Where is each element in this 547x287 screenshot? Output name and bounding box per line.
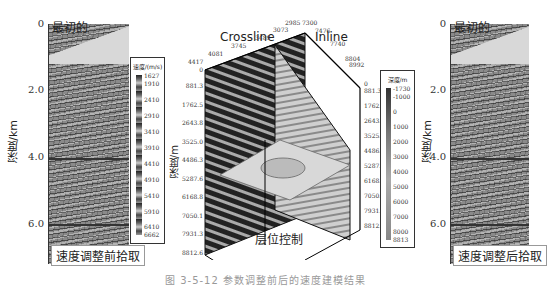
- left-bottom-label: 速度调整前拾取: [51, 245, 145, 266]
- left-y-tick: 6.0: [20, 218, 44, 229]
- horizon-line: [451, 224, 529, 226]
- depth-tick: 2643.8: [182, 119, 203, 126]
- depth-legend-title: 深度/m: [381, 75, 414, 84]
- crossline-tick: 3073: [273, 26, 288, 33]
- horizon-line: [49, 224, 129, 226]
- left-y-tick: 0: [20, 18, 44, 29]
- velocity-tick: 6410: [144, 223, 159, 230]
- velocity-tick: 1910: [144, 80, 159, 87]
- depth-legend-tick: 1000: [393, 123, 408, 130]
- left-seismic-image: [49, 24, 129, 264]
- right-seismic-panel: 深度/km 0 2.0 4.0 6.0 最初的 速度调整后拾取: [420, 0, 542, 270]
- crossline-tick: 3489: [255, 34, 270, 41]
- velocity-tick: 4910: [144, 176, 159, 183]
- crossline-tick: 3745: [231, 42, 246, 49]
- depth-legend-tick: 0: [393, 108, 397, 115]
- velocity-legend-title: 速度/(m/s): [131, 62, 164, 71]
- depth-colorbar: [386, 88, 391, 240]
- horizon-control-label: 层位控制: [255, 230, 303, 247]
- left-y-tick: 4.0: [20, 151, 44, 162]
- depth-legend-tick: 4000: [393, 168, 408, 175]
- right-y-tick: 4.0: [422, 151, 446, 162]
- velocity-tick: 6662: [144, 231, 159, 238]
- depth-tick: 881.3: [364, 87, 381, 94]
- depth-legend-tick: 3000: [393, 153, 408, 160]
- right-bottom-label: 速度调整后拾取: [453, 245, 547, 266]
- crossline-tick: 2985: [285, 19, 300, 26]
- left-corner-label: 最初的: [52, 18, 88, 35]
- depth-tick: 881.3: [186, 82, 203, 89]
- depth-legend-tick: 5000: [393, 183, 408, 190]
- inline-tick: 7476: [315, 27, 330, 34]
- depth-legend: 深度/m -1730 -1000 0 1000 2000 3000 4000 5…: [380, 70, 415, 248]
- depth-tick: 7050.1: [182, 212, 203, 219]
- left-y-tick: 2.0: [20, 84, 44, 95]
- depth-tick: 1762.5: [182, 101, 203, 108]
- depth-legend-tick: 8000: [393, 228, 408, 235]
- velocity-tick: 4410: [144, 160, 159, 167]
- right-y-tick: 0: [422, 18, 446, 29]
- depth-legend-tick: 2000: [393, 138, 408, 145]
- depth-tick: 0: [199, 66, 203, 73]
- velocity-tick: 3410: [144, 128, 159, 135]
- left-seismic-panel: 深度/km 0 2.0 4.0 6.0 最初的 速度调整前拾取: [0, 0, 130, 270]
- depth-tick: 8812.6: [182, 249, 203, 256]
- velocity-tick: 5410: [144, 192, 159, 199]
- velocity-tick: 5910: [144, 208, 159, 215]
- crossline-tick: 4081: [208, 50, 223, 57]
- right-y-tick: 2.0: [422, 84, 446, 95]
- velocity-tick: 3910: [144, 144, 159, 151]
- velocity-tick: 2410: [144, 96, 159, 103]
- depth-tick: 0: [364, 80, 368, 87]
- velocity-tick: 1627: [144, 72, 159, 79]
- depth-tick: 7931.3: [182, 230, 203, 237]
- cube-left-depth-axis: 0 881.3 1762.5 2643.8 3525.0 4486.3 5287…: [179, 66, 205, 256]
- depth-legend-tick: -1730: [393, 85, 410, 92]
- depth-legend-tick: -1000: [393, 93, 410, 100]
- velocity-cube-3d: Crossline Inline 4417 4081 3745 3489 307…: [165, 0, 375, 260]
- depth-tick: 5287.6: [182, 175, 203, 182]
- inline-tick: 8992: [349, 61, 364, 68]
- right-corner-label: 最初的: [454, 18, 490, 35]
- crossline-tick: 4417: [188, 58, 203, 65]
- inline-tick: 7300: [302, 19, 317, 26]
- velocity-tick: 2910: [144, 112, 159, 119]
- velocity-colorbar: [136, 75, 142, 235]
- depth-tick: 3525.0: [182, 138, 203, 145]
- horizon-line: [451, 158, 529, 160]
- depth-tick: 4486.3: [182, 156, 203, 163]
- depth-legend-tick: 7000: [393, 213, 408, 220]
- horizon-line: [49, 158, 129, 160]
- right-y-tick: 6.0: [422, 218, 446, 229]
- right-seismic-image: [451, 24, 529, 264]
- velocity-legend: 速度/(m/s) 1627 1910 2410 2910 3410 3910 4…: [130, 57, 165, 244]
- depth-legend-tick: 8813: [393, 236, 408, 243]
- inline-tick: 7740: [330, 40, 345, 47]
- figure-caption: 图 3-5-12 参数调整前后的速度建模结果: [165, 272, 366, 287]
- depth-tick: 6168.8: [182, 193, 203, 200]
- depth-legend-tick: 6000: [393, 198, 408, 205]
